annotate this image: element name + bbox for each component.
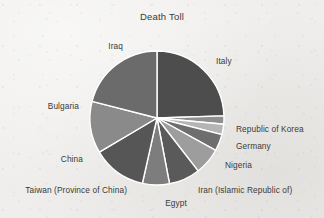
pie-slice-label: Bulgaria bbox=[48, 102, 79, 110]
pie-slice-label: China bbox=[61, 155, 83, 163]
pie-slice-label: Italy bbox=[216, 57, 232, 65]
pie-slice-label: Taiwan (Province of China) bbox=[25, 186, 127, 194]
pie-slice-label: Egypt bbox=[165, 199, 187, 207]
pie-slice[interactable] bbox=[157, 51, 224, 118]
pie-slices-group bbox=[90, 51, 224, 185]
pie-slice-label: Germany bbox=[236, 142, 271, 150]
chart-page: Death Toll ItalyRepublic of KoreaGermany… bbox=[0, 0, 324, 218]
pie-slice-label: Nigeria bbox=[225, 161, 252, 169]
pie-slice-label: Iran (Islamic Republic of) bbox=[198, 186, 292, 194]
pie-slice-label: Iraq bbox=[108, 42, 123, 50]
pie-slice-label: Republic of Korea bbox=[236, 125, 304, 133]
